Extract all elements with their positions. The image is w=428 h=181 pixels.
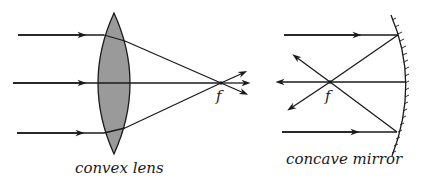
mirror-hatching <box>392 18 409 153</box>
concave-mirror-surface <box>391 15 406 156</box>
focus-label-mirror: f <box>324 87 333 105</box>
focus-label-lens: f <box>215 87 224 105</box>
focal-point-lens <box>219 81 223 85</box>
concave-mirror-group: f concave mirror <box>280 15 409 168</box>
convex-lens-label: convex lens <box>75 159 164 177</box>
converging-rays <box>125 41 246 128</box>
optics-diagram: f convex lens <box>0 0 428 181</box>
mirror-rays <box>280 35 406 132</box>
concave-mirror-label: concave mirror <box>286 150 403 168</box>
focal-point-mirror <box>328 80 332 84</box>
convex-lens-group: f convex lens <box>13 13 246 177</box>
